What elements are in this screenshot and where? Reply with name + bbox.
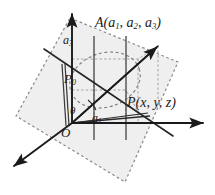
label-component-a3: a3 [63, 34, 73, 46]
geometry-figure: A(a1, a2, a3) P(x, y, z) a3 P0 a1 O θ [0, 0, 215, 195]
label-point-P0: P0 [64, 72, 76, 85]
label-angle-theta: θ [70, 105, 75, 116]
label-origin: O [61, 126, 70, 139]
label-component-a1: a1 [92, 112, 102, 124]
label-point-A: A(a1, a2, a3) [95, 16, 161, 30]
label-point-P: P(x, y, z) [127, 96, 176, 110]
